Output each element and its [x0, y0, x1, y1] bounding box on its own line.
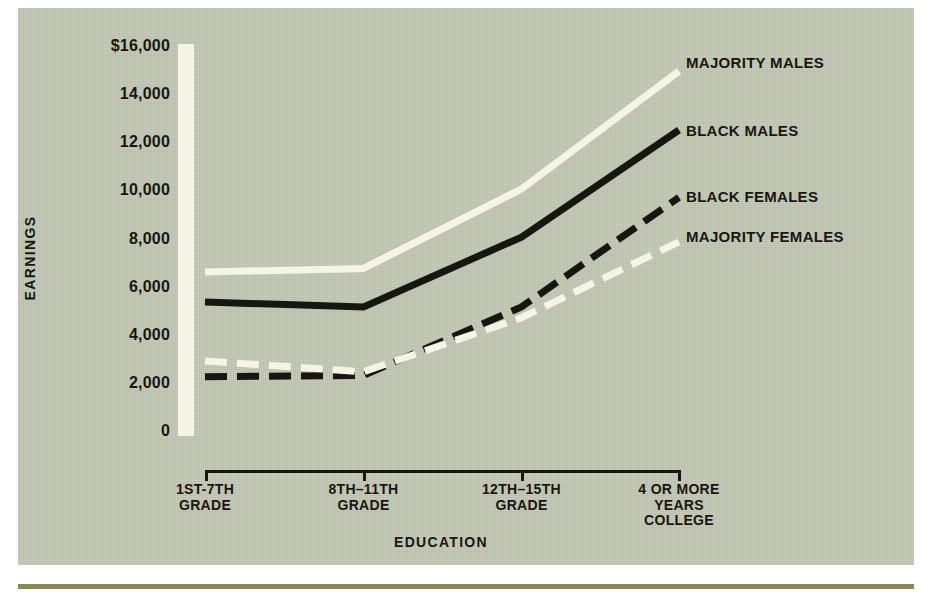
x-tick-1	[205, 470, 208, 481]
series-label-majority-females: MAJORITY FEMALES	[686, 228, 844, 245]
x-axis-line	[205, 470, 680, 473]
bottom-rule	[18, 584, 914, 589]
x-category-label-line: GRADE	[130, 498, 280, 514]
series-label-majority-males: MAJORITY MALES	[686, 54, 824, 71]
x-category-label-line: GRADE	[289, 498, 439, 514]
x-category-label-line: 8TH–11TH	[289, 482, 439, 498]
plot-area: EARNINGS 02,0004,0006,0008,00010,00012,0…	[0, 0, 932, 596]
x-category-label-line: COLLEGE	[604, 513, 754, 529]
x-tick-3	[521, 470, 524, 481]
x-tick-2	[363, 470, 366, 481]
x-tick-4	[678, 470, 681, 481]
series-line-0	[205, 71, 679, 272]
x-category-label-line: YEARS	[604, 498, 754, 514]
x-category-label: 12TH–15THGRADE	[447, 482, 597, 513]
x-category-label: 4 OR MOREYEARSCOLLEGE	[604, 482, 754, 529]
x-category-label-line: 12TH–15TH	[447, 482, 597, 498]
series-label-black-females: BLACK FEMALES	[686, 188, 818, 205]
x-category-label-line: 1ST-7TH	[130, 482, 280, 498]
x-axis-title: EDUCATION	[341, 534, 541, 550]
series-label-black-males: BLACK MALES	[686, 122, 798, 139]
chart-figure: EARNINGS 02,0004,0006,0008,00010,00012,0…	[0, 0, 932, 596]
x-category-label: 8TH–11THGRADE	[289, 482, 439, 513]
series-line-2	[205, 197, 679, 376]
x-category-label: 1ST-7THGRADE	[130, 482, 280, 513]
series-line-1	[205, 130, 679, 307]
x-category-label-line: 4 OR MORE	[604, 482, 754, 498]
x-category-label-line: GRADE	[447, 498, 597, 514]
